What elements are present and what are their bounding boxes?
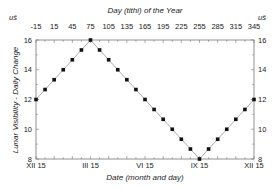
data-point-marker <box>61 68 65 72</box>
data-point-marker <box>34 98 38 102</box>
data-point-marker <box>80 48 84 52</box>
chart: -15154575105135165195225255285315345 XII… <box>0 0 279 189</box>
data-point-marker <box>107 58 111 62</box>
right-unit-label: uš <box>258 13 266 22</box>
data-point-marker <box>116 68 120 72</box>
data-point-marker <box>161 117 165 121</box>
top-tick-label: 135 <box>121 22 134 31</box>
top-tick-label: 285 <box>211 22 224 31</box>
data-point-marker <box>143 98 147 102</box>
data-point-marker <box>71 58 75 62</box>
data-point-marker <box>216 137 220 141</box>
top-tick-label: 195 <box>157 22 170 31</box>
data-point-marker <box>125 78 129 82</box>
top-axis-title: Day (tithi) of the Year <box>108 6 183 15</box>
top-tick-label: 315 <box>230 22 243 31</box>
bottom-tick-label: VI 15 <box>136 161 154 170</box>
data-point-marker <box>189 147 193 151</box>
y-tick-label-right: 12 <box>258 95 266 104</box>
data-series <box>34 38 256 161</box>
bottom-axis-labels: XII 15III 15VI 15IX 15XII 15 <box>26 161 264 170</box>
y-tick-label-right: 10 <box>258 125 266 134</box>
y-tick-label-right: 16 <box>258 36 266 45</box>
data-point-marker <box>170 127 174 131</box>
data-point-marker <box>207 147 211 151</box>
data-point-marker <box>98 48 102 52</box>
left-unit-label: uš <box>9 13 17 22</box>
data-point-marker <box>243 108 247 112</box>
data-point-marker <box>180 137 184 141</box>
top-tick-label: 45 <box>68 22 76 31</box>
y-tick-label-right: 8 <box>258 155 262 164</box>
y-tick-label-left: 10 <box>24 125 32 134</box>
data-point-marker <box>134 88 138 92</box>
data-point-marker <box>43 88 47 92</box>
top-tick-label: 105 <box>102 22 115 31</box>
top-tick-label: 345 <box>248 22 261 31</box>
top-tick-label: 225 <box>175 22 188 31</box>
x-axis-title: Date (month and day) <box>106 173 184 182</box>
data-point-marker <box>252 98 256 102</box>
top-tick-label: 255 <box>193 22 206 31</box>
top-tick-label: -15 <box>31 22 42 31</box>
data-point-marker <box>198 157 202 161</box>
data-point-marker <box>52 78 56 82</box>
data-point-marker <box>89 38 93 42</box>
top-tick-label: 165 <box>139 22 152 31</box>
y-tick-label-right: 14 <box>258 65 266 74</box>
data-point-marker <box>234 117 238 121</box>
data-point-marker <box>152 108 156 112</box>
bottom-tick-label: IX 15 <box>191 161 209 170</box>
y-tick-label-left: 14 <box>24 65 32 74</box>
y-tick-label-left: 8 <box>28 155 32 164</box>
data-point-marker <box>225 127 229 131</box>
top-tick-label: 75 <box>86 22 94 31</box>
y-tick-label-left: 16 <box>24 36 32 45</box>
top-axis-labels: -15154575105135165195225255285315345 <box>31 22 261 31</box>
top-tick-label: 15 <box>50 22 58 31</box>
y-tick-label-left: 12 <box>24 95 32 104</box>
y-axis-title: Lunar Visibility - Daily Change <box>11 46 20 153</box>
bottom-tick-label: III 15 <box>82 161 99 170</box>
